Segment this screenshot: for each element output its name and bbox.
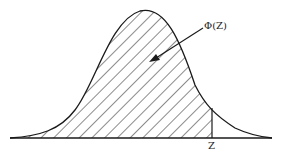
shaded-area bbox=[10, 10, 272, 138]
phi-z-label: Φ(Z) bbox=[204, 20, 227, 31]
bell-curve-diagram bbox=[0, 0, 283, 155]
z-label: Z bbox=[208, 140, 215, 151]
